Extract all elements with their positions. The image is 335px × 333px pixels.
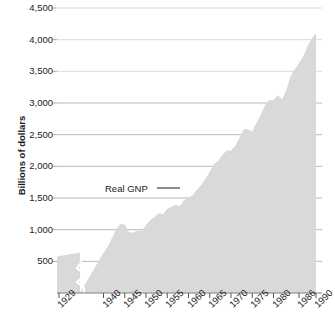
x-axis-tick-label: 1965 (206, 287, 229, 310)
x-axis-tick-label: 1950 (142, 287, 165, 310)
x-axis-tick-label: 1980 (270, 287, 293, 310)
x-axis-tick-label: 1929 (55, 287, 78, 310)
x-axis-tick-label: 1960 (185, 287, 208, 310)
x-axis-tick-label: 1955 (163, 287, 186, 310)
x-axis-tick-label: 1975 (248, 287, 271, 310)
x-axis-tick-label: 1990 (312, 287, 335, 310)
x-axis-tick-label: 1945 (121, 287, 144, 310)
x-axis-tick-label: 1970 (227, 287, 250, 310)
x-axis-tick-label: 1940 (100, 287, 123, 310)
